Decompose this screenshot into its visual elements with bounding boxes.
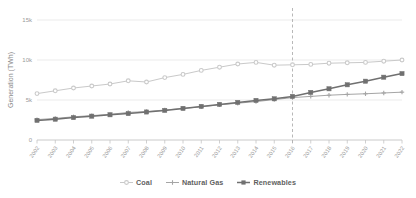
data-point <box>163 108 167 112</box>
x-tick-label: 2021 <box>375 145 387 159</box>
data-point <box>145 80 149 84</box>
series-line <box>37 74 402 121</box>
legend-marker-square-icon <box>237 178 250 187</box>
data-point <box>345 83 349 87</box>
data-point <box>126 79 130 83</box>
x-tick-label: 2009 <box>156 145 168 159</box>
x-tick-label: 2017 <box>302 145 314 159</box>
data-point <box>35 118 39 122</box>
y-tick-label: 10k <box>22 57 33 63</box>
legend-label: Coal <box>136 178 152 187</box>
data-point <box>345 61 349 65</box>
data-point <box>364 61 368 65</box>
data-point <box>327 87 331 91</box>
x-tick-label: 2015 <box>266 145 278 159</box>
data-point <box>290 94 294 98</box>
data-point <box>72 86 76 90</box>
legend-marker-circle-icon <box>120 178 133 187</box>
data-point <box>291 63 295 67</box>
legend-label: Natural Gas <box>182 178 223 187</box>
data-point <box>199 69 203 73</box>
data-point <box>400 58 404 62</box>
data-point <box>90 84 94 88</box>
data-point <box>272 97 276 101</box>
data-point <box>163 76 167 80</box>
x-tick-label: 2020 <box>357 145 369 159</box>
data-point <box>199 104 203 108</box>
chart-legend: CoalNatural GasRenewables <box>0 174 416 190</box>
data-point <box>254 98 258 102</box>
data-point <box>144 110 148 114</box>
data-point <box>309 63 313 67</box>
x-tick-label: 2005 <box>83 145 95 159</box>
data-point <box>35 92 39 96</box>
line-chart-plot: 05k10k15k 200220032004200520062007200820… <box>0 0 416 198</box>
x-tick-label: 2022 <box>393 145 405 159</box>
y-tick-label: 15k <box>22 17 33 23</box>
y-tick-label: 5k <box>26 97 33 103</box>
data-point <box>254 61 258 65</box>
data-point <box>363 79 367 83</box>
data-point <box>126 112 130 116</box>
legend-marker-plus-icon <box>166 178 179 187</box>
data-point <box>218 65 222 69</box>
series-renewables <box>35 72 404 123</box>
x-tick-label: 2014 <box>247 145 259 159</box>
data-series-group <box>35 58 404 122</box>
data-point <box>53 89 57 93</box>
x-axis-tick-labels: 2002200320042005200620072008200920102011… <box>28 145 405 159</box>
x-tick-label: 2013 <box>229 145 241 159</box>
x-tick-label: 2010 <box>174 145 186 159</box>
data-point <box>272 63 276 67</box>
x-tick-label: 2002 <box>28 145 40 159</box>
x-tick-label: 2018 <box>320 145 332 159</box>
data-point <box>382 59 386 63</box>
x-tick-label: 2016 <box>284 145 296 159</box>
series-coal <box>35 58 404 95</box>
x-tick-label: 2006 <box>101 145 113 159</box>
x-tick-label: 2004 <box>65 145 77 159</box>
data-point <box>90 114 94 118</box>
data-point <box>400 72 404 76</box>
data-point <box>53 117 57 121</box>
data-point <box>236 62 240 66</box>
y-axis-tick-labels: 05k10k15k <box>22 17 33 143</box>
x-tick-label: 2003 <box>47 145 59 159</box>
x-tick-label: 2008 <box>138 145 150 159</box>
data-point <box>181 106 185 110</box>
y-tick-label: 0 <box>29 137 33 143</box>
legend-label: Renewables <box>253 178 296 187</box>
data-point <box>217 102 221 106</box>
y-axis-title-text: Generation (TWh) <box>7 52 15 108</box>
legend-item-coal[interactable]: Coal <box>120 178 152 187</box>
legend-item-renewables[interactable]: Renewables <box>237 178 296 187</box>
x-tick-label: 2019 <box>339 145 351 159</box>
data-point <box>71 116 75 120</box>
data-point <box>108 113 112 117</box>
data-point <box>309 90 313 94</box>
data-point <box>327 61 331 65</box>
data-point <box>382 75 386 79</box>
x-axis-ticks <box>37 140 402 144</box>
data-point <box>108 82 112 86</box>
y-axis-title: Generation (TWh) <box>7 52 15 108</box>
x-tick-label: 2011 <box>193 145 205 158</box>
data-point <box>236 100 240 104</box>
x-tick-label: 2007 <box>120 145 132 159</box>
data-point <box>181 73 185 77</box>
x-tick-label: 2012 <box>211 145 223 159</box>
legend-item-natural-gas[interactable]: Natural Gas <box>166 178 223 187</box>
chart-container: 05k10k15k 200220032004200520062007200820… <box>0 0 416 198</box>
